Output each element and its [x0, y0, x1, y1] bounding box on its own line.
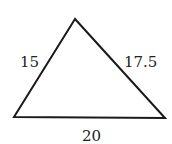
triangle-diagram: 15 17.5 20	[0, 0, 172, 144]
side-label-bottom: 20	[82, 127, 101, 144]
side-label-left: 15	[20, 53, 39, 71]
side-label-right: 17.5	[124, 53, 157, 71]
